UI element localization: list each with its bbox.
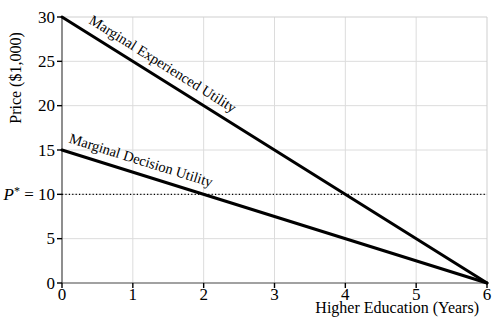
x-tick-label: 6	[483, 285, 492, 304]
x-tick-label: 2	[199, 285, 208, 304]
y-tick-label: 5	[47, 229, 56, 248]
y-tick-label: 0	[47, 274, 56, 293]
y-tick-label: 25	[38, 52, 55, 71]
x-axis-title: Higher Education (Years)	[315, 299, 479, 317]
y-tick-label: 15	[38, 141, 55, 160]
y-axis-title: Price ($1,000)	[7, 32, 25, 124]
y-tick-label: 20	[38, 96, 55, 115]
y-tick-label: 30	[38, 8, 55, 27]
marginal-experienced-utility-label: Marginal Experienced Utility	[86, 12, 240, 116]
x-tick-label: 1	[129, 285, 138, 304]
utility-chart-canvas: Marginal Experienced UtilityMarginal Dec…	[0, 0, 495, 332]
x-tick-label: 0	[58, 285, 67, 304]
x-tick-label: 3	[270, 285, 279, 304]
figure: Marginal Experienced UtilityMarginal Dec…	[0, 0, 495, 332]
price-reference-label: P* = 10	[3, 184, 55, 204]
